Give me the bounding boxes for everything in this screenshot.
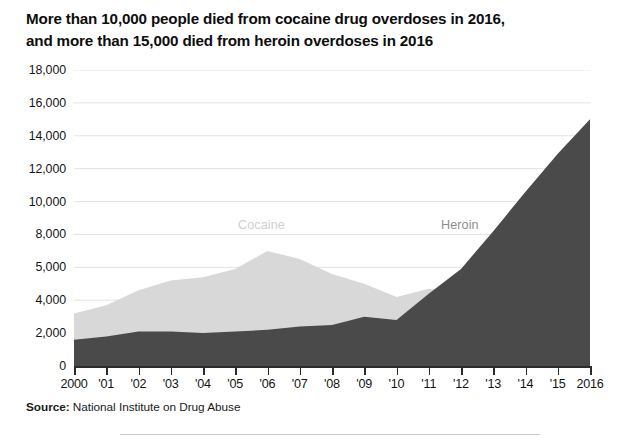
x-tick-label: '08: [324, 377, 340, 391]
plot-area: [74, 70, 590, 366]
x-tick-label: '07: [292, 377, 308, 391]
y-tick-label: 4,000: [35, 293, 66, 307]
x-tick-mark: [429, 366, 431, 375]
x-tick-mark: [139, 366, 141, 375]
x-tick-mark: [558, 366, 560, 375]
x-tick-mark: [364, 366, 366, 375]
series-areas: [74, 119, 590, 366]
x-tick-mark: [235, 366, 237, 375]
y-tick-label: 2,000: [35, 326, 66, 340]
x-tick-label: '05: [227, 377, 243, 391]
x-tick-mark: [268, 366, 270, 375]
x-tick-mark: [171, 366, 173, 375]
x-tick-label: '14: [518, 377, 534, 391]
area-chart: 02,0004,0005,0008,00010,00012,00014,0001…: [0, 0, 618, 443]
x-tick-mark: [493, 366, 495, 375]
x-tick-mark: [203, 366, 205, 375]
y-tick-label: 5,000: [35, 260, 66, 274]
bottom-divider: [120, 434, 540, 435]
plot-svg: [74, 70, 590, 366]
x-tick-label: '04: [195, 377, 211, 391]
x-tick-mark: [106, 366, 108, 375]
source-label: Source:: [26, 400, 70, 414]
y-tick-label: 8,000: [35, 227, 66, 241]
x-tick-label: '15: [550, 377, 566, 391]
y-tick-label: 0: [59, 359, 66, 373]
x-tick-label: '13: [485, 377, 501, 391]
x-tick-label: '09: [356, 377, 372, 391]
y-tick-label: 14,000: [29, 129, 66, 143]
series-label-cocaine: Cocaine: [238, 218, 285, 232]
x-tick-label: '02: [131, 377, 147, 391]
x-tick-label: '06: [260, 377, 276, 391]
x-tick-mark: [397, 366, 399, 375]
series-label-heroin: Heroin: [441, 218, 479, 232]
x-tick-mark: [300, 366, 302, 375]
y-tick-label: 16,000: [29, 96, 66, 110]
x-tick-label: 2016: [576, 377, 603, 391]
x-tick-mark: [526, 366, 528, 375]
x-tick-mark: [332, 366, 334, 375]
y-tick-label: 18,000: [29, 63, 66, 77]
source-text: National Institute on Drug Abuse: [70, 400, 241, 414]
x-tick-label: '11: [421, 377, 436, 391]
y-tick-label: 10,000: [29, 195, 66, 209]
x-tick-mark: [461, 366, 463, 375]
x-tick-mark: [590, 366, 592, 375]
x-tick-mark: [74, 366, 76, 375]
x-tick-label: '10: [389, 377, 405, 391]
y-tick-label: 12,000: [29, 162, 66, 176]
x-tick-label: '01: [98, 377, 114, 391]
source-note: Source: National Institute on Drug Abuse: [26, 400, 240, 414]
x-tick-label: 2000: [60, 377, 87, 391]
x-tick-label: '12: [453, 377, 469, 391]
x-tick-label: '03: [163, 377, 179, 391]
